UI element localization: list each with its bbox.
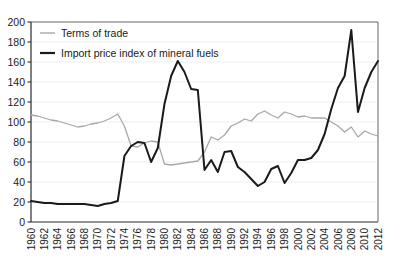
y-axis-tick-label: 180	[7, 36, 25, 48]
x-axis-tick-label: 1988	[212, 228, 223, 251]
x-axis-tick-label: 1964	[52, 228, 63, 251]
x-axis-tick-labels: 1960196219641966196819701972197419761978…	[26, 228, 384, 251]
y-axis-tick-label: 20	[13, 196, 25, 208]
x-axis-tick-label: 1980	[159, 228, 170, 251]
y-axis-tick-label: 0	[19, 216, 25, 228]
chart-container: 020406080100120140160180200 196019621964…	[0, 0, 408, 275]
y-axis-tick-label: 60	[13, 156, 25, 168]
y-axis-tick-label: 100	[7, 116, 25, 128]
x-axis-tick-label: 1996	[266, 228, 277, 251]
x-axis-tick-label: 1986	[199, 228, 210, 251]
y-axis-tick-label: 80	[13, 136, 25, 148]
y-axis-tick-label: 160	[7, 56, 25, 68]
x-axis-tick-label: 2006	[333, 228, 344, 251]
x-axis-tick-label: 2004	[319, 228, 330, 251]
y-axis-tick-label: 40	[13, 176, 25, 188]
x-axis-tick-label: 1966	[66, 228, 77, 251]
x-axis-tick-label: 1968	[79, 228, 90, 251]
x-axis-tick-label: 1972	[106, 228, 117, 251]
x-axis-tick-label: 1990	[226, 228, 237, 251]
x-axis-tick-label: 1978	[146, 228, 157, 251]
x-axis-tick-label: 1998	[279, 228, 290, 251]
x-axis-tick-label: 1960	[26, 228, 37, 251]
x-axis-tick-label: 2008	[346, 228, 357, 251]
x-axis-tick-label: 2012	[373, 228, 384, 251]
legend-label: Terms of trade	[61, 27, 128, 39]
x-axis-tick-label: 1982	[172, 228, 183, 251]
x-axis-tick-label: 1962	[39, 228, 50, 251]
line-chart: 020406080100120140160180200 196019621964…	[0, 0, 408, 275]
x-axis-tick-label: 2002	[306, 228, 317, 251]
y-axis-tick-labels: 020406080100120140160180200	[7, 16, 25, 228]
legend-label: Import price index of mineral fuels	[61, 47, 219, 59]
x-axis-tick-label: 1970	[92, 228, 103, 251]
x-axis-tick-label: 1976	[132, 228, 143, 251]
y-axis-tick-label: 120	[7, 96, 25, 108]
x-axis-tick-label: 1984	[186, 228, 197, 251]
x-axis-tick-label: 1974	[119, 228, 130, 251]
x-axis-tick-label: 1994	[252, 228, 263, 251]
x-axis-tick-label: 1992	[239, 228, 250, 251]
y-axis-tick-label: 200	[7, 16, 25, 28]
x-axis-tick-label: 2000	[293, 228, 304, 251]
y-axis-tick-label: 140	[7, 76, 25, 88]
x-axis-tick-label: 2010	[359, 228, 370, 251]
